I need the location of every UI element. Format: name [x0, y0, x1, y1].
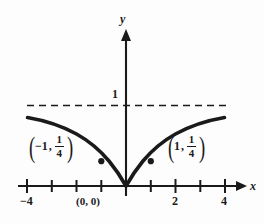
- y-axis-label: y: [120, 13, 125, 25]
- right-comma: ,: [181, 139, 184, 154]
- x-tick-label-2: 2: [172, 195, 178, 207]
- graph-canvas: [0, 0, 264, 224]
- right-denominator: 4: [188, 147, 196, 159]
- left-point-annotation: ( −1 , 1 4 ): [27, 134, 75, 159]
- left-close-paren: ): [67, 135, 73, 158]
- graph-figure: y x 1 −4 2 4 (0, 0) ( −1 , 1 4 ) ( 1 , 1…: [0, 0, 264, 224]
- right-point-annotation: ( 1 , 1 4 ): [166, 134, 207, 159]
- point-marker-left: [98, 158, 104, 164]
- x-axis-arrowhead: [236, 181, 247, 191]
- right-x-value: 1: [174, 139, 180, 154]
- left-open-paren: (: [29, 135, 35, 158]
- left-fraction: 1 4: [55, 134, 64, 159]
- origin-point-label: (0, 0): [76, 196, 100, 207]
- right-fraction: 1 4: [187, 134, 196, 159]
- left-numerator: 1: [56, 134, 64, 146]
- left-comma: ,: [49, 139, 52, 154]
- left-denominator: 4: [56, 147, 64, 159]
- point-marker-right: [148, 158, 154, 164]
- x-tick-label--4: −4: [20, 195, 33, 207]
- asymptote-value-label: 1: [112, 88, 118, 100]
- x-tick-label-4: 4: [221, 195, 227, 207]
- x-axis-label: x: [250, 180, 256, 192]
- right-numerator: 1: [188, 134, 196, 146]
- right-close-paren: ): [199, 135, 205, 158]
- right-open-paren: (: [168, 135, 174, 158]
- left-x-value: −1: [35, 139, 48, 154]
- y-axis-arrowhead: [121, 29, 131, 41]
